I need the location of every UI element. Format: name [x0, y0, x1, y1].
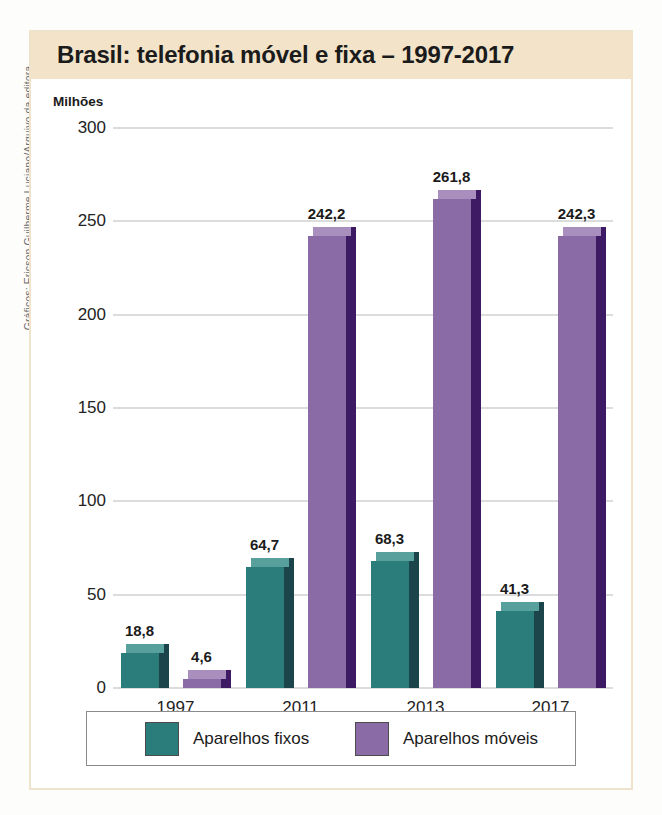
y-axis-tick-label: 100: [78, 491, 106, 511]
chart-title: Brasil: telefonia móvel e fixa – 1997-20…: [57, 41, 514, 69]
bar[interactable]: 41,3: [496, 611, 534, 688]
bar-group: 64,7242,22011: [238, 128, 363, 688]
bar-top-face: [188, 670, 226, 679]
bar-side-face: [284, 558, 294, 688]
y-axis-tick-label: 300: [78, 118, 106, 138]
bar[interactable]: 64,7: [246, 567, 284, 688]
bar-front-face: [558, 236, 596, 688]
bar[interactable]: 242,2: [308, 236, 346, 688]
bar-top-face: [376, 552, 414, 561]
bar[interactable]: 242,3: [558, 236, 596, 688]
bar-front-face: [308, 236, 346, 688]
bar-value-label: 4,6: [191, 648, 212, 665]
bar-group: 68,3261,82013: [363, 128, 488, 688]
bar-value-label: 41,3: [500, 580, 529, 597]
bar[interactable]: 18,8: [121, 653, 159, 688]
bar-front-face: [246, 567, 284, 688]
bar-value-label: 242,3: [558, 205, 596, 222]
legend-item[interactable]: Aparelhos móveis: [355, 722, 538, 756]
y-axis-tick-label: 50: [87, 585, 106, 605]
bar[interactable]: 68,3: [371, 561, 409, 688]
bar-side-face: [346, 227, 356, 688]
chart-page: Gráficos: Ericson Guilherme Luciano/Arqu…: [0, 0, 662, 815]
bar-group: 41,3242,32017: [488, 128, 613, 688]
bar-top-face: [313, 227, 351, 236]
bar-front-face: [433, 199, 471, 688]
bar-front-face: [183, 679, 221, 688]
bar-side-face: [471, 190, 481, 688]
bar[interactable]: 4,6: [183, 679, 221, 688]
bar[interactable]: 261,8: [433, 199, 471, 688]
bar-front-face: [371, 561, 409, 688]
bar-front-face: [496, 611, 534, 688]
bar-top-face: [251, 558, 289, 567]
bar-front-face: [121, 653, 159, 688]
bar-side-face: [534, 602, 544, 688]
bar-top-face: [563, 227, 601, 236]
bar-top-face: [126, 644, 164, 653]
bar-side-face: [596, 227, 606, 688]
y-axis-tick-label: 250: [78, 211, 106, 231]
legend-item[interactable]: Aparelhos fixos: [145, 722, 309, 756]
bar-value-label: 64,7: [250, 536, 279, 553]
y-axis-tick-label: 200: [78, 305, 106, 325]
plot-area: 050100150200250300 18,84,6199764,7242,22…: [53, 128, 613, 688]
title-band: Brasil: telefonia móvel e fixa – 1997-20…: [31, 32, 631, 79]
bar-value-label: 18,8: [125, 622, 154, 639]
bar-group: 18,84,61997: [113, 128, 238, 688]
y-axis-tick-label: 0: [97, 678, 106, 698]
bar-top-face: [501, 602, 539, 611]
bar-side-face: [409, 552, 419, 688]
legend-color-swatch: [145, 722, 179, 756]
y-axis-unit-label: Milhões: [53, 94, 103, 109]
chart-figure: Brasil: telefonia móvel e fixa – 1997-20…: [29, 30, 633, 790]
bar-value-label: 242,2: [308, 205, 346, 222]
bar-top-face: [438, 190, 476, 199]
bar-value-label: 68,3: [375, 530, 404, 547]
y-axis-tick-label: 150: [78, 398, 106, 418]
legend-label: Aparelhos fixos: [193, 729, 309, 749]
bar-value-label: 261,8: [433, 168, 471, 185]
legend-color-swatch: [355, 722, 389, 756]
chart-legend: Aparelhos fixosAparelhos móveis: [86, 711, 576, 766]
legend-label: Aparelhos móveis: [403, 729, 538, 749]
